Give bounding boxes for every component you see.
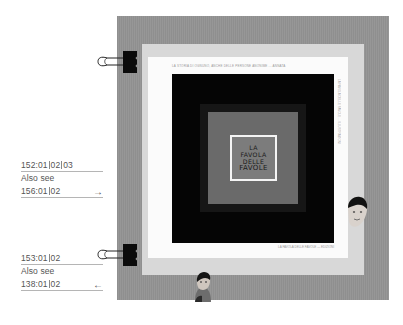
separator (49, 254, 50, 262)
binder-clip-icon (97, 51, 137, 73)
reference-code-part: 03 (63, 160, 73, 170)
clip-jaw (123, 244, 137, 266)
binder-clip-icon (97, 244, 137, 266)
link-code-part: 02 (51, 186, 61, 196)
separator (49, 280, 50, 288)
person-bottom (191, 272, 215, 302)
clip-handle-icon (97, 249, 125, 260)
artwork-paper: LA STORIA DI OGNUNO, ANCHE DELLE PERSONE… (148, 57, 348, 258)
clip-handle-icon (97, 56, 125, 67)
reference-block-152: 152:010203 Also see 156:0102 → (21, 159, 103, 198)
reference-code-part: 02 (51, 253, 61, 263)
caption-top: LA STORIA DI OGNUNO, ANCHE DELLE PERSONE… (172, 64, 286, 68)
title-line: LA (249, 144, 258, 151)
clip-jaw (123, 51, 137, 73)
also-see-label: Also see (21, 172, 103, 185)
title-card: LA FAVOLA DELLE FAVOLE (230, 135, 277, 181)
caption-side: LA FAVOLA DELLE FAVOLE ... ILLUSTRAZIONI (337, 79, 341, 149)
reference-block-153: 153:0102 Also see 138:0102 ← (21, 252, 103, 291)
link-code-part: 138:01 (21, 279, 48, 289)
caption-bottom: LA FAVOLA DELLE FAVOLE — EDIZIONI (278, 245, 334, 249)
title-card-inner: LA FAVOLA DELLE FAVOLE (232, 137, 275, 179)
link-code-part: 02 (51, 279, 61, 289)
separator (49, 161, 50, 169)
arrow-right-icon[interactable]: → (93, 185, 103, 198)
arrow-left-icon[interactable]: ← (93, 278, 103, 291)
dark-frame: LA FAVOLA DELLE FAVOLE (200, 104, 306, 212)
link-code-part: 156:01 (21, 186, 48, 196)
reference-code-part: 153:01 (21, 253, 48, 263)
reference-code: 153:0102 (21, 252, 103, 265)
gray-field: LA FAVOLA DELLE FAVOLE (208, 112, 298, 204)
also-see-link[interactable]: 156:0102 → (21, 185, 103, 198)
black-frame: LA FAVOLA DELLE FAVOLE (172, 74, 334, 243)
reference-code: 152:010203 (21, 159, 103, 172)
page: 152:010203 Also see 156:0102 → 153:0102 … (0, 0, 403, 325)
title-line: FAVOLA (240, 151, 266, 158)
title-line: FAVOLE (239, 165, 268, 172)
also-see-label: Also see (21, 265, 103, 278)
reference-code-part: 152:01 (21, 160, 48, 170)
artwork-board: LA STORIA DI OGNUNO, ANCHE DELLE PERSONE… (117, 16, 389, 300)
reference-code-part: 02 (51, 160, 61, 170)
person-peeking-right (346, 196, 368, 231)
also-see-link[interactable]: 138:0102 ← (21, 278, 103, 291)
artwork-mat: LA STORIA DI OGNUNO, ANCHE DELLE PERSONE… (142, 44, 364, 275)
separator (49, 187, 50, 195)
